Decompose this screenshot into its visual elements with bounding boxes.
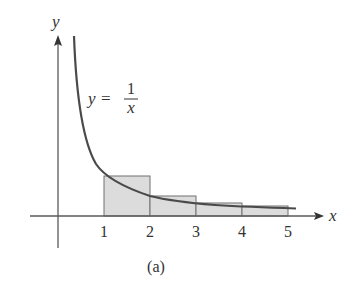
function-denominator: x — [126, 98, 135, 117]
function-equals: = — [101, 89, 111, 108]
function-lhs: y — [86, 89, 96, 108]
x-tick-4: 4 — [238, 223, 246, 240]
x-tick-3: 3 — [192, 223, 200, 240]
y-axis-label: y — [50, 12, 60, 31]
riemann-rectangles — [104, 176, 288, 216]
riemann-sum-diagram: y x 1 2 3 4 5 y = 1 x (a) — [0, 0, 357, 294]
x-tick-labels: 1 2 3 4 5 — [100, 223, 292, 240]
x-tick-1: 1 — [100, 223, 108, 240]
function-label: y = 1 x — [86, 80, 138, 117]
x-tick-5: 5 — [284, 223, 292, 240]
function-numerator: 1 — [127, 80, 135, 97]
x-tick-2: 2 — [146, 223, 154, 240]
x-axis-label: x — [328, 206, 337, 225]
rectangle-2 — [150, 196, 196, 216]
axes — [30, 35, 324, 248]
rectangle-1 — [104, 176, 150, 216]
figure-caption: (a) — [147, 258, 165, 276]
